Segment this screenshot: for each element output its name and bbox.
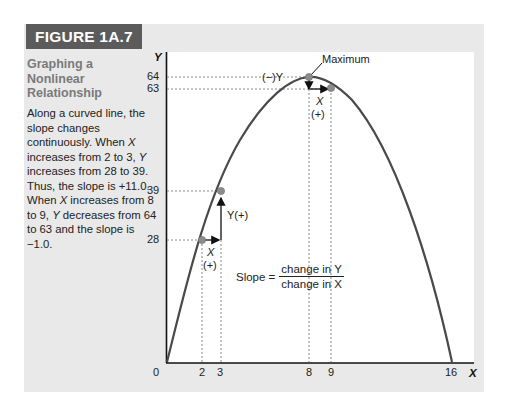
curve-line [167, 77, 452, 362]
slope-fraction: change in Y change in X [279, 263, 344, 290]
y-plus-label: Y(+) [227, 209, 248, 221]
y-tick-63: 63 [147, 82, 159, 94]
maximum-label: Maximum [322, 53, 370, 65]
guide-lines [167, 77, 331, 362]
delta-x1-var: X [207, 246, 214, 258]
neg-y-label: (−)Y [262, 71, 283, 83]
origin-label: 0 [153, 366, 159, 378]
x-tick-16: 16 [445, 366, 457, 378]
chart-graphic [0, 0, 508, 409]
slope-label: Slope = [236, 271, 275, 283]
slope-formula: Slope = change in Y change in X [236, 263, 344, 290]
y-tick-39: 39 [147, 184, 159, 196]
y-tick-28: 28 [147, 233, 159, 245]
x-tick-9: 9 [328, 366, 334, 378]
slope-denominator: change in X [281, 277, 342, 290]
delta-x2-sign: (+) [311, 108, 325, 120]
x-tick-2: 2 [199, 366, 205, 378]
delta-x1-sign: (+) [203, 259, 217, 271]
neg-y-text: (−)Y [262, 71, 283, 83]
x-axis-label: X [469, 367, 477, 379]
maximum-pointer [311, 63, 322, 75]
y-axis-label: Y [154, 51, 162, 63]
x-tick-3: 3 [217, 366, 223, 378]
slope-numerator: change in Y [279, 263, 344, 277]
x-tick-8: 8 [306, 366, 312, 378]
delta-x2-var: X [316, 95, 323, 107]
y-tick-64: 64 [147, 70, 159, 82]
data-points [198, 73, 334, 243]
